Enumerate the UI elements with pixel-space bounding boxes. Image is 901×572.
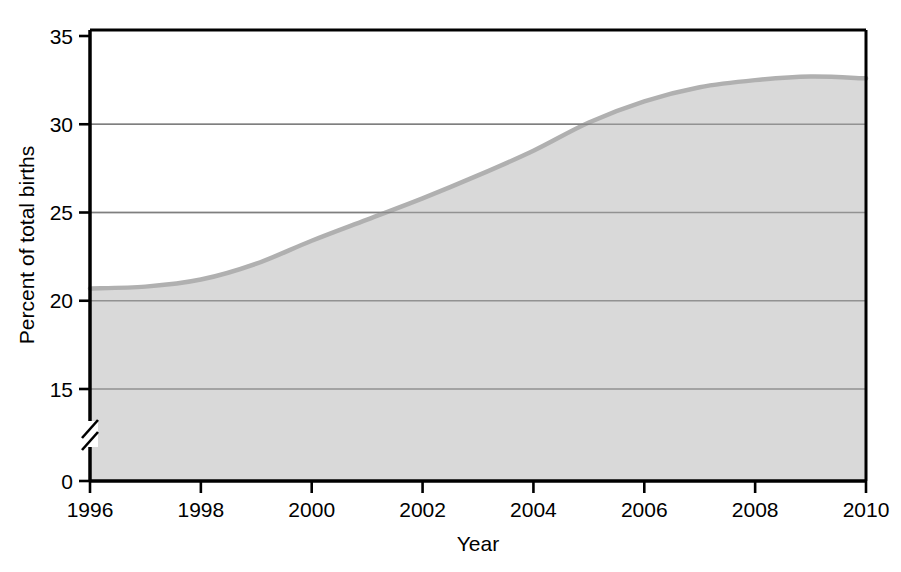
y-tick-label-25: 25 [50,201,73,224]
x-tick-label-2000: 2000 [288,498,335,521]
y-tick-label-35: 35 [50,25,73,48]
x-tick-label-2006: 2006 [621,498,668,521]
chart-container: 01520253035 1996199820002002200420062008… [0,0,901,572]
y-tick-label-20: 20 [50,289,73,312]
y-tick-label-0: 0 [61,470,73,493]
y-tick-label-15: 15 [50,378,73,401]
x-tick-label-1998: 1998 [177,498,224,521]
y-axis-title: Percent of total births [15,146,38,344]
x-tick-label-2004: 2004 [510,498,557,521]
x-axis-title: Year [457,532,499,555]
x-tick-label-2010: 2010 [843,498,890,521]
x-tick-label-2002: 2002 [399,498,446,521]
x-tick-label-2008: 2008 [732,498,779,521]
y-tick-label-30: 30 [50,113,73,136]
x-tick-label-1996: 1996 [67,498,114,521]
y-axis-break-icon [82,420,98,450]
area-chart: 01520253035 1996199820002002200420062008… [0,0,901,572]
